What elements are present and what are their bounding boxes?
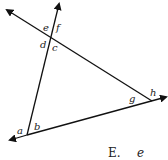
- angle-label-c: c: [52, 42, 58, 53]
- line-upper: [7, 10, 152, 101]
- answer-value: e: [137, 146, 144, 160]
- answer-letter: E.: [108, 146, 121, 160]
- angle-label-g: g: [129, 93, 135, 104]
- line-bottom-right: [27, 97, 166, 135]
- angle-label-e: e: [43, 22, 49, 33]
- angle-label-f: f: [55, 22, 62, 33]
- angle-label-h: h: [150, 87, 156, 98]
- angle-label-b: b: [34, 121, 40, 132]
- angle-label-d: d: [40, 39, 46, 50]
- transversal-diagram: e f d c g h a b E. e: [0, 0, 168, 160]
- angle-label-a: a: [17, 125, 23, 136]
